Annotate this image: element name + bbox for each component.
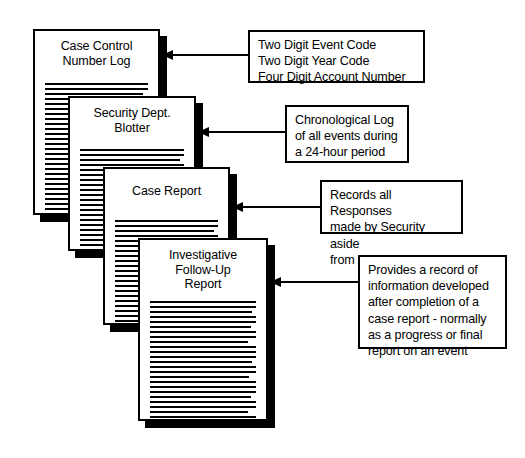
document-body-lines bbox=[150, 301, 256, 421]
document-title: Investigative Follow-Up Report bbox=[140, 240, 266, 292]
connector-line-case-report bbox=[241, 206, 321, 208]
callout-case-control-number-log: Two Digit Event Code Two Digit Year Code… bbox=[248, 30, 425, 83]
arrowhead-investigative-follow-up-report bbox=[270, 277, 281, 287]
connector-line-investigative-follow-up-report bbox=[279, 281, 359, 283]
document-page: Investigative Follow-Up Report bbox=[138, 238, 268, 421]
callout-investigative-follow-up-report: Provides a record of information develop… bbox=[358, 255, 507, 349]
document-title: Case Control Number Log bbox=[35, 31, 158, 68]
document-title: Security Dept. Blotter bbox=[70, 98, 194, 135]
callout-case-report: Records all Responses made by Security a… bbox=[320, 180, 463, 234]
connector-line-security-dept-blotter bbox=[207, 131, 286, 133]
arrowhead-security-dept-blotter bbox=[198, 127, 209, 137]
document-title: Case Report bbox=[105, 169, 228, 199]
callout-security-dept-blotter: Chronological Log of all events during a… bbox=[285, 105, 409, 163]
diagram-canvas: Case Control Number Log bbox=[0, 0, 525, 458]
connector-line-case-control-number-log bbox=[171, 54, 249, 56]
document-investigative-follow-up-report[interactable]: Investigative Follow-Up Report bbox=[138, 238, 268, 421]
arrowhead-case-report bbox=[232, 202, 243, 212]
arrowhead-case-control-number-log bbox=[162, 50, 173, 60]
